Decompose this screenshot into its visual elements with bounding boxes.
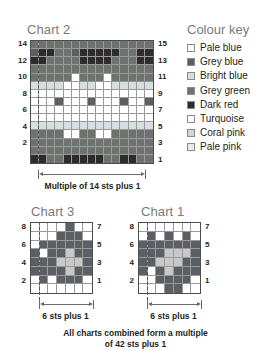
chart-cell — [80, 82, 88, 90]
chart-cell — [120, 90, 128, 98]
chart3-row-labels-right: 7531 — [97, 222, 113, 294]
row-number-label: 4 — [130, 259, 134, 267]
chart-cell — [120, 114, 128, 122]
chart-cell — [104, 155, 112, 163]
chart-cell — [112, 139, 120, 147]
chart-cell — [112, 106, 120, 114]
chart-cell — [40, 223, 49, 232]
row-number-label: 1 — [205, 277, 209, 285]
chart-cell — [40, 258, 49, 267]
chart-cell — [72, 57, 80, 65]
chart-cell — [47, 155, 55, 163]
chart-cell — [80, 90, 88, 98]
chart-cell — [75, 284, 84, 293]
chart-cell — [120, 49, 128, 57]
chart-cell — [75, 223, 84, 232]
colour-key-item: Bright blue — [187, 69, 250, 83]
chart-cell — [120, 41, 128, 49]
colour-key-label: Pale pink — [200, 142, 241, 152]
chart-cell — [83, 276, 92, 285]
chart-cell — [40, 267, 49, 276]
chart-cell — [104, 147, 112, 155]
chart-cell — [120, 82, 128, 90]
chart-cell — [174, 249, 183, 258]
chart-cell — [120, 106, 128, 114]
chart-cell — [191, 232, 200, 241]
chart-cell — [112, 65, 120, 73]
chart-cell — [83, 223, 92, 232]
chart-cell — [88, 82, 96, 90]
chart-cell — [174, 276, 183, 285]
chart-cell — [47, 41, 55, 49]
chart-cell — [165, 223, 174, 232]
chart-cell — [148, 249, 157, 258]
row-number-label: 11 — [158, 73, 166, 81]
chart-cell — [47, 122, 55, 130]
chart-cell — [57, 241, 66, 250]
chart2-row-labels-left: 1412108642 — [0, 40, 27, 164]
row-number-label: 14 — [18, 40, 27, 48]
chart-cell — [72, 147, 80, 155]
chart-cell — [40, 241, 49, 250]
chart-cell — [120, 147, 128, 155]
chart-cell — [174, 241, 183, 250]
row-number-label: 10 — [18, 73, 27, 81]
chart-cell — [88, 122, 96, 130]
chart-cell — [55, 90, 63, 98]
chart-cell — [112, 57, 120, 65]
colour-swatch-icon — [187, 129, 195, 137]
chart-cell — [64, 41, 72, 49]
row-number-label: 6 — [23, 106, 27, 114]
chart-cell — [165, 232, 174, 241]
chart-cell — [120, 65, 128, 73]
chart-cell — [83, 232, 92, 241]
chart-cell — [129, 155, 137, 163]
chart-cell — [39, 49, 47, 57]
chart-cell — [156, 249, 165, 258]
row-number-label: 13 — [158, 57, 167, 65]
chart-cell — [191, 249, 200, 258]
chart-cell — [39, 90, 47, 98]
chart-cell — [129, 49, 137, 57]
row-number-label: 2 — [23, 139, 27, 147]
chart-cell — [88, 106, 96, 114]
chart-cell — [148, 241, 157, 250]
chart-cell — [55, 41, 63, 49]
chart-cell — [88, 130, 96, 138]
chart-cell — [96, 130, 104, 138]
chart-cell — [96, 139, 104, 147]
chart-cell — [80, 122, 88, 130]
colour-key-title: Colour key — [187, 22, 249, 37]
chart-cell — [72, 155, 80, 163]
chart-cell — [156, 284, 165, 293]
chart-cell — [39, 41, 47, 49]
chart3-measure-bar — [39, 300, 94, 309]
colour-swatch-icon — [187, 143, 195, 151]
chart-cell — [57, 249, 66, 258]
chart-cell — [66, 249, 75, 258]
chart-cell — [57, 267, 66, 276]
chart2-measure-bar — [38, 170, 146, 179]
chart-cell — [72, 130, 80, 138]
row-number-label: 4 — [22, 259, 26, 267]
chart-cell — [112, 98, 120, 106]
chart-cell — [47, 90, 55, 98]
chart-cell — [47, 82, 55, 90]
footnote-line-1: All charts combined form a multiple — [0, 328, 271, 339]
chart-cell — [55, 114, 63, 122]
chart-cell — [66, 241, 75, 250]
row-number-label: 8 — [23, 90, 27, 98]
chart-cell — [145, 130, 153, 138]
chart-cell — [64, 82, 72, 90]
chart-cell — [75, 276, 84, 285]
chart-cell — [104, 106, 112, 114]
chart-cell — [66, 232, 75, 241]
chart2-grid[interactable] — [30, 40, 154, 164]
chart-cell — [57, 258, 66, 267]
chart-cell — [174, 232, 183, 241]
chart-cell — [64, 147, 72, 155]
chart-cell — [120, 57, 128, 65]
chart-cell — [137, 114, 145, 122]
chart-cell — [72, 122, 80, 130]
chart-cell — [165, 258, 174, 267]
